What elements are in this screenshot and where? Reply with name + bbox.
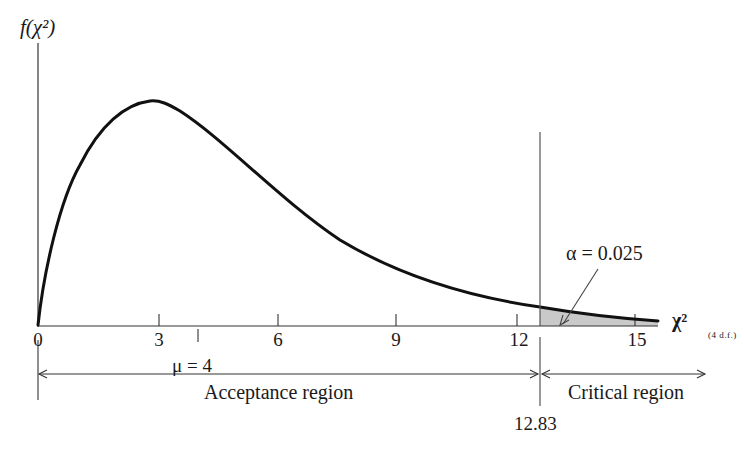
y-axis-label: f(χ²) bbox=[20, 17, 55, 38]
tick-label-3: 3 bbox=[154, 330, 164, 349]
tick-label-0: 0 bbox=[33, 330, 43, 349]
x-axis-label: χ² bbox=[672, 310, 687, 330]
critical-region-label: Critical region bbox=[568, 382, 684, 402]
tick-label-12: 12 bbox=[510, 330, 529, 349]
alpha-label: α = 0.025 bbox=[566, 243, 643, 263]
acceptance-region-label: Acceptance region bbox=[204, 382, 353, 402]
tick-label-9: 9 bbox=[391, 330, 401, 349]
tick-label-15: 15 bbox=[628, 330, 647, 349]
acceptance-region-arrow bbox=[39, 370, 538, 378]
density-curve bbox=[38, 101, 658, 325]
mean-label: μ = 4 bbox=[172, 356, 212, 375]
critical-value-label: 12.83 bbox=[514, 414, 557, 433]
degrees-of-freedom-label: (4 d.f.) bbox=[708, 331, 737, 340]
tick-label-6: 6 bbox=[273, 330, 283, 349]
critical-region-arrow bbox=[542, 370, 705, 378]
